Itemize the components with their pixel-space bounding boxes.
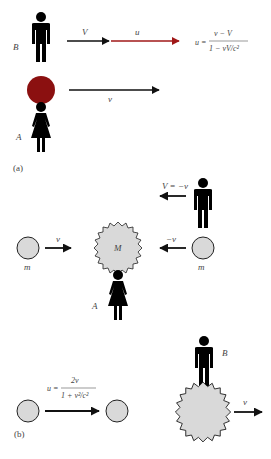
formula-a-numerator: v − V — [214, 29, 233, 38]
observer-b-label-b: B — [222, 348, 228, 358]
arrow-left-mass-label: v — [56, 234, 60, 244]
arrow-V-label: V — [82, 27, 89, 37]
man-icon — [195, 336, 213, 386]
panel-b-top: V = −v m v M −v m A — [17, 178, 214, 320]
formula-a-lhs: u = — [195, 38, 206, 47]
formula-b-numerator: 2v — [71, 376, 79, 385]
observer-velocity-label: V = −v — [162, 181, 188, 191]
moving-ball — [27, 76, 55, 104]
observer-a-label-b: A — [91, 301, 98, 311]
formula-b-lhs: u = — [47, 384, 58, 393]
observer-a-label: A — [15, 132, 22, 142]
formula-a-denominator: 1 − vV/c² — [209, 44, 240, 53]
man-icon — [32, 12, 50, 62]
formula-a: u = v − V 1 − vV/c² — [195, 29, 248, 53]
formula-b: u = 2v 1 + v²/c² — [47, 376, 96, 400]
mass-end — [106, 400, 128, 422]
panel-b-caption: (b) — [14, 429, 25, 439]
woman-icon — [31, 102, 51, 152]
panel-b-bottom: u = 2v 1 + v²/c² (b) B v — [14, 336, 262, 442]
arrow-right-mass-label: −v — [166, 234, 176, 244]
relativistic-velocity-diagram: B V u u = v − V 1 − vV/c² v A (a) V = −v… — [0, 0, 271, 459]
panel-a: B V u u = v − V 1 − vV/c² v A (a) — [13, 12, 248, 173]
merged-mass: M — [94, 222, 142, 274]
merged-mass-label: M — [113, 243, 122, 253]
woman-icon — [108, 270, 128, 320]
mass-right — [192, 237, 214, 259]
observer-b-label: B — [13, 42, 19, 52]
mass-left — [17, 237, 39, 259]
merged-mass-moving — [175, 382, 230, 442]
panel-a-caption: (a) — [13, 163, 23, 173]
formula-b-denominator: 1 + v²/c² — [61, 391, 89, 400]
mass-left-label: m — [24, 262, 31, 272]
arrow-u-label: u — [135, 27, 140, 37]
mass-start — [17, 400, 39, 422]
mass-right-label: m — [198, 262, 205, 272]
man-icon — [194, 178, 212, 228]
arrow-v-label: v — [108, 94, 112, 104]
arrow-merged-label: v — [243, 397, 247, 407]
